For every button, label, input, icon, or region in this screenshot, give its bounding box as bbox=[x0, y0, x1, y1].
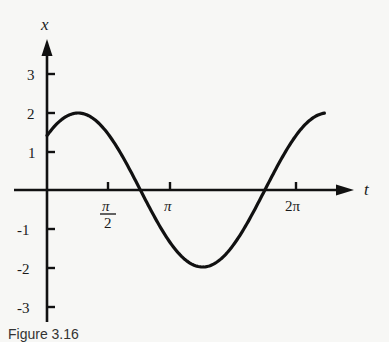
x-axis-label: t bbox=[364, 180, 370, 199]
x-tick-label-denominator: 2 bbox=[104, 215, 112, 231]
x-tick-pi-over-2: π 2 bbox=[100, 198, 116, 231]
y-tick-label: 3 bbox=[27, 67, 35, 83]
y-tick-label: -3 bbox=[17, 300, 30, 316]
y-tick-label: -1 bbox=[17, 222, 30, 238]
figure-caption: Figure 3.16 bbox=[8, 326, 79, 342]
x-tick-label-numerator: π bbox=[102, 198, 110, 214]
y-axis-label: x bbox=[40, 15, 49, 34]
y-tick-label: -2 bbox=[17, 261, 30, 277]
x-axis-arrow-icon bbox=[336, 185, 354, 196]
x-tick-label: 2π bbox=[285, 198, 301, 214]
y-tick-label: 1 bbox=[28, 145, 36, 161]
y-axis-arrow-icon bbox=[42, 39, 53, 56]
y-tick-label: 2 bbox=[27, 106, 35, 122]
x-tick-label: π bbox=[164, 198, 172, 214]
